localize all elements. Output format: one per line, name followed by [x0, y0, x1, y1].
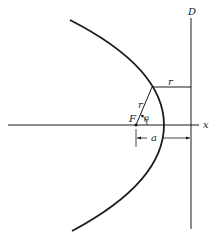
distance-a-label: a: [151, 132, 157, 143]
dimension-arrow-left: [137, 137, 141, 140]
angle-label: θ: [144, 115, 149, 124]
directrix-label: D: [187, 6, 196, 17]
directrix-distance-label: r: [168, 76, 174, 87]
x-axis-label: x: [203, 119, 209, 130]
parabola-diagram: D x F r r θ a: [0, 0, 220, 241]
focus-label: F: [128, 113, 137, 124]
dimension-arrow-right: [186, 137, 190, 140]
